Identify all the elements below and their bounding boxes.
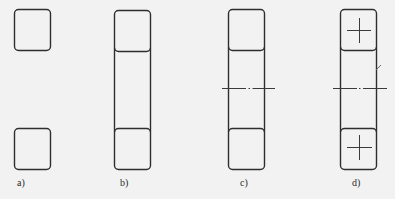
panel-c-label: c) [240,177,248,188]
panel-b-shapes [115,11,151,170]
panel-a-shapes [15,10,51,170]
panel-b-label: b) [120,177,128,188]
figure-canvas: a) b) c) d) [0,0,395,199]
panel-d-bottom-square [341,129,377,170]
panel-a-bottom-square [15,129,51,170]
panel-c-top-square [229,10,265,51]
panel-b-top-square [115,11,151,52]
panel-c-shapes [229,10,265,170]
panel-c-bottom-square [229,129,265,170]
panel-d-label: d) [352,177,360,188]
panel-a-label: a) [17,177,25,188]
panel-d-shapes [341,10,377,170]
panel-d-bottom-cross-icon [347,135,372,160]
panel-d-top-cross-icon [347,18,371,43]
diagram-svg [0,0,395,199]
panel-b-bottom-square [115,129,151,170]
panel-a-top-square [15,10,51,51]
